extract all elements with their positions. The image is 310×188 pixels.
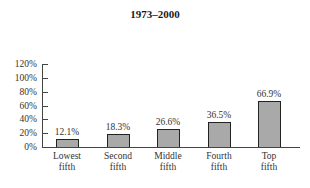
bar <box>157 129 180 147</box>
y-tick-label: 0% <box>0 142 37 152</box>
y-tick <box>42 106 48 107</box>
x-axis-line <box>42 147 300 148</box>
bar <box>56 139 79 147</box>
y-tick-label: 80% <box>0 87 37 97</box>
category-label: Middlefifth <box>143 151 193 173</box>
category-label-line: fifth <box>42 162 92 173</box>
bar <box>208 122 231 147</box>
chart-title: 1973–2000 <box>0 8 310 20</box>
category-label: Lowestfifth <box>42 151 92 173</box>
bar-value-label: 36.5% <box>194 110 244 120</box>
category-label-line: fifth <box>93 162 143 173</box>
bar-value-label: 12.1% <box>42 127 92 137</box>
y-tick-label: 100% <box>0 73 37 83</box>
category-label-line: fifth <box>244 162 294 173</box>
y-tick <box>42 64 48 65</box>
category-label-line: Second <box>93 151 143 162</box>
category-label-line: Middle <box>143 151 193 162</box>
category-label-line: fifth <box>143 162 193 173</box>
y-tick-label: 60% <box>0 101 37 111</box>
y-tick-label: 20% <box>0 128 37 138</box>
y-tick <box>42 78 48 79</box>
category-label-line: Top <box>244 151 294 162</box>
bar-value-label: 18.3% <box>93 122 143 132</box>
bar-value-label: 66.9% <box>244 89 294 99</box>
y-tick-label: 40% <box>0 114 37 124</box>
y-tick <box>42 92 48 93</box>
y-tick <box>42 119 48 120</box>
category-label-line: Fourth <box>194 151 244 162</box>
category-label: Secondfifth <box>93 151 143 173</box>
category-label-line: fifth <box>194 162 244 173</box>
y-tick-label: 120% <box>0 59 37 69</box>
category-label: Topfifth <box>244 151 294 173</box>
category-label: Fourthfifth <box>194 151 244 173</box>
bar <box>107 134 130 147</box>
bar <box>258 101 281 147</box>
bar-value-label: 26.6% <box>143 117 193 127</box>
category-label-line: Lowest <box>42 151 92 162</box>
